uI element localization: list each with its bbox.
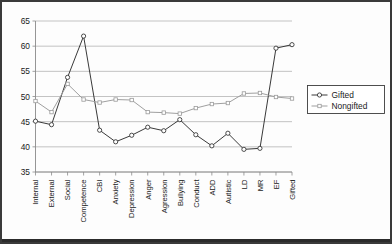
y-axis-tick-labels: 35404550556065 bbox=[21, 16, 31, 177]
data-point-nongifted bbox=[98, 101, 101, 104]
data-point-gifted bbox=[98, 128, 102, 132]
data-point-nongifted bbox=[146, 110, 149, 113]
x-category-label: Depression bbox=[127, 180, 136, 218]
data-point-nongifted bbox=[162, 111, 165, 114]
legend-marker-circle-icon bbox=[317, 93, 321, 97]
data-point-nongifted bbox=[274, 95, 277, 98]
legend-marker-square-icon bbox=[318, 104, 321, 107]
y-tick-label: 55 bbox=[21, 66, 31, 76]
line-chart: 35404550556065 InternalExternalSocialCom… bbox=[2, 2, 392, 244]
x-axis-tick-marks bbox=[36, 172, 293, 176]
data-point-nongifted bbox=[226, 101, 229, 104]
data-point-nongifted bbox=[34, 99, 37, 102]
data-point-nongifted bbox=[258, 91, 261, 94]
data-point-gifted bbox=[130, 133, 134, 137]
data-point-nongifted bbox=[194, 106, 197, 109]
gridlines-group bbox=[33, 21, 293, 172]
series-line-nongifted bbox=[36, 84, 293, 114]
data-point-nongifted bbox=[290, 97, 293, 100]
data-point-gifted bbox=[33, 119, 37, 123]
x-category-label: CBI bbox=[95, 180, 104, 193]
x-category-label: Anxiety bbox=[111, 179, 120, 204]
x-category-label: Bullying bbox=[176, 180, 185, 207]
data-point-gifted bbox=[194, 133, 198, 137]
x-category-label: Social bbox=[63, 179, 72, 200]
data-point-nongifted bbox=[178, 112, 181, 115]
chart-legend[interactable]: GiftedNongifted bbox=[308, 86, 385, 114]
y-tick-label: 35 bbox=[21, 167, 31, 177]
data-point-gifted bbox=[210, 144, 214, 148]
x-category-label: ADD bbox=[208, 179, 217, 196]
data-point-gifted bbox=[242, 147, 246, 151]
x-category-label: Autistic bbox=[224, 179, 233, 204]
data-point-gifted bbox=[162, 129, 166, 133]
x-category-label: External bbox=[47, 179, 56, 207]
x-category-label: Anger bbox=[144, 179, 153, 200]
data-point-nongifted bbox=[82, 98, 85, 101]
legend-label: Gifted bbox=[332, 90, 355, 100]
data-point-gifted bbox=[178, 118, 182, 122]
data-point-gifted bbox=[226, 131, 230, 135]
data-point-nongifted bbox=[114, 98, 117, 101]
x-category-label: LD bbox=[240, 179, 249, 189]
y-tick-label: 60 bbox=[21, 41, 31, 51]
data-point-gifted bbox=[290, 43, 294, 47]
x-category-label: EF bbox=[272, 179, 281, 189]
x-category-label: Agression bbox=[160, 180, 169, 214]
x-category-label: MR bbox=[256, 179, 265, 191]
x-category-label: Competence bbox=[79, 180, 88, 223]
x-category-label: Internal bbox=[31, 179, 40, 205]
y-tick-label: 65 bbox=[21, 16, 31, 26]
x-axis-category-labels: InternalExternalSocialCompetenceCBIAnxie… bbox=[31, 179, 297, 223]
x-category-label: Conduct bbox=[192, 179, 201, 208]
data-point-nongifted bbox=[242, 92, 245, 95]
legend-label: Nongifted bbox=[332, 101, 368, 111]
data-point-nongifted bbox=[66, 82, 69, 85]
data-point-nongifted bbox=[210, 102, 213, 105]
y-tick-label: 40 bbox=[21, 142, 31, 152]
data-point-gifted bbox=[49, 123, 53, 127]
x-category-label: Gifted bbox=[288, 180, 297, 200]
data-point-gifted bbox=[81, 34, 85, 38]
y-tick-label: 50 bbox=[21, 92, 31, 102]
data-point-gifted bbox=[65, 75, 69, 79]
data-point-gifted bbox=[114, 140, 118, 144]
data-point-nongifted bbox=[130, 98, 133, 101]
chart-figure: 35404550556065 InternalExternalSocialCom… bbox=[0, 0, 392, 244]
data-point-nongifted bbox=[50, 110, 53, 113]
y-tick-label: 45 bbox=[21, 117, 31, 127]
data-point-gifted bbox=[146, 125, 150, 129]
data-point-gifted bbox=[258, 146, 262, 150]
data-point-gifted bbox=[274, 46, 278, 50]
